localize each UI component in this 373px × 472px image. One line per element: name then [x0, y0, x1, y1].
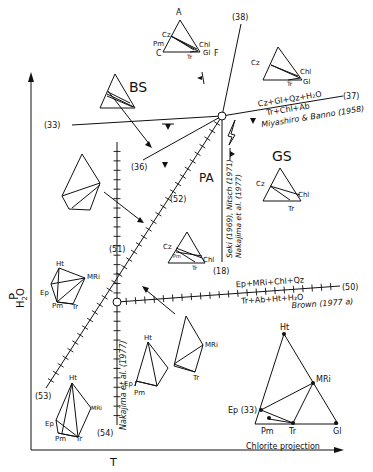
svg-text:Chl: Chl	[199, 41, 210, 49]
svg-text:Pm: Pm	[52, 302, 63, 310]
svg-text:Ht: Ht	[280, 323, 289, 332]
svg-text:Tr: Tr	[286, 80, 293, 87]
svg-text:MRi: MRi	[91, 404, 102, 411]
ternary-right-upper	[263, 47, 302, 80]
svg-text:(33): (33)	[44, 121, 60, 130]
field-gs: GS	[272, 148, 292, 164]
svg-text:(50): (50)	[342, 283, 358, 292]
svg-text:Seki (1969), Nitsch (1971): Seki (1969), Nitsch (1971)	[225, 159, 234, 258]
svg-text:Nakajima et al. (1977): Nakajima et al. (1977)	[234, 174, 243, 258]
ternary-gs	[263, 168, 301, 201]
svg-text:Gl: Gl	[333, 427, 341, 436]
x-axis-label: T	[109, 456, 117, 469]
invariant-point-lower	[113, 298, 121, 306]
svg-text:Pm: Pm	[134, 389, 145, 397]
svg-text:Gl: Gl	[203, 49, 210, 57]
svg-text:(51): (51)	[109, 245, 125, 254]
ticks-diagonal	[48, 122, 220, 383]
svg-text:Tr: Tr	[287, 205, 294, 213]
svg-text:Cz: Cz	[251, 59, 260, 67]
svg-text:MRi: MRi	[205, 341, 218, 349]
polygon-center-low	[135, 342, 168, 386]
svg-text:Ht: Ht	[144, 334, 152, 342]
svg-text:Cz: Cz	[256, 180, 265, 188]
svg-text:C: C	[156, 49, 162, 58]
svg-text:Ep+MRi+Chl+Qz: Ep+MRi+Chl+Qz	[236, 275, 305, 289]
svg-text:Tr: Tr	[288, 427, 297, 436]
svg-text:Pm: Pm	[173, 253, 181, 259]
svg-text:F: F	[214, 49, 219, 58]
svg-text:(18): (18)	[213, 267, 229, 276]
svg-text:Tr: Tr	[186, 53, 193, 60]
svg-text:Chl: Chl	[300, 68, 311, 76]
svg-text:Chl: Chl	[203, 256, 214, 264]
polygon-left-mid	[62, 154, 100, 210]
svg-text:Pm: Pm	[153, 40, 164, 48]
svg-text:Tr: Tr	[71, 303, 78, 311]
svg-text:Ep: Ep	[45, 420, 54, 428]
svg-text:Nakajima et al. (1977): Nakajima et al. (1977)	[119, 340, 128, 430]
svg-text:Pm: Pm	[55, 435, 66, 443]
labels: A Cz Pm C Chl Tr Gl F Cz Chl Tr Gl Cz Ch…	[7, 8, 365, 469]
field-pa: PA	[199, 171, 214, 185]
svg-text:Chl: Chl	[298, 191, 309, 199]
svg-text:Cz: Cz	[162, 31, 171, 39]
svg-text:Ht: Ht	[56, 260, 64, 268]
svg-text:Cz: Cz	[163, 243, 172, 251]
svg-text:Gl: Gl	[303, 78, 310, 86]
svg-text:Tr: Tr	[191, 264, 198, 271]
svg-text:Chlorite projection: Chlorite projection	[246, 442, 320, 451]
svg-text:(38): (38)	[232, 13, 248, 22]
svg-text:MRi: MRi	[87, 273, 100, 281]
svg-text:Ep: Ep	[40, 289, 49, 297]
reaction-lines	[46, 24, 343, 425]
polygon-right-low	[174, 316, 203, 372]
polygon-left-low	[56, 383, 91, 437]
svg-text:(36): (36)	[131, 163, 147, 172]
svg-text:(54): (54)	[97, 429, 113, 438]
field-bs: BS	[129, 79, 147, 95]
phase-diagram: A Cz Pm C Chl Tr Gl F Cz Chl Tr Gl Cz Ch…	[0, 0, 373, 472]
svg-text:Tr: Tr	[75, 435, 82, 443]
svg-text:MRi: MRi	[316, 375, 331, 384]
invariant-point-upper	[218, 112, 226, 120]
svg-text:(37): (37)	[343, 92, 359, 101]
svg-text:(53): (53)	[35, 392, 51, 401]
svg-text:Pm: Pm	[261, 427, 274, 436]
label-a: A	[176, 8, 182, 17]
svg-text:Ht: Ht	[69, 374, 77, 382]
svg-text:(52): (52)	[170, 195, 186, 204]
svg-text:Tr: Tr	[192, 374, 199, 382]
polygon-ht-mri-upper	[51, 268, 85, 304]
svg-text:Ep (33): Ep (33)	[228, 406, 257, 415]
